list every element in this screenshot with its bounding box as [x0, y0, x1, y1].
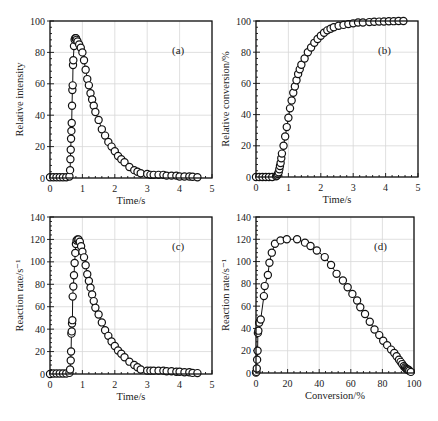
- x-tick-labels: 012345: [254, 182, 421, 193]
- data-point: [68, 102, 75, 109]
- data-point: [283, 236, 290, 243]
- x-tick-labels: 020406080100: [254, 378, 422, 389]
- x-tick-label: 3: [351, 182, 356, 193]
- y-tick-label: 140: [236, 212, 251, 223]
- x-tick-label: 3: [145, 183, 150, 194]
- x-tick-labels: 012345: [48, 379, 215, 390]
- data-point: [327, 261, 334, 268]
- figure: 012345020406080100Time/sRelative intensi…: [0, 0, 438, 421]
- data-point: [194, 370, 201, 377]
- y-tick-label: 40: [241, 109, 251, 120]
- y-tick-label: 80: [35, 47, 45, 58]
- data-point: [268, 249, 275, 256]
- y-tick-label: 0: [40, 369, 45, 380]
- y-tick-label: 60: [35, 78, 45, 89]
- y-tick-label: 60: [241, 301, 251, 312]
- data-point: [66, 366, 73, 373]
- data-point: [257, 316, 264, 323]
- y-axis-label: Relative conversion/%: [220, 51, 231, 147]
- y-tick-label: 40: [241, 323, 251, 334]
- data-point: [92, 304, 99, 311]
- data-point: [293, 236, 300, 243]
- x-tick-label: 1: [80, 379, 85, 390]
- data-point: [254, 356, 261, 363]
- data-point: [98, 319, 105, 326]
- y-axis-label: Relative intensity: [14, 62, 25, 137]
- y-tick-label: 0: [246, 368, 251, 379]
- data-point: [321, 254, 328, 261]
- panel-label: (d): [374, 240, 387, 253]
- data-point: [85, 82, 92, 89]
- data-point: [79, 49, 86, 56]
- data-point: [69, 317, 76, 324]
- y-tick-label: 100: [30, 256, 45, 267]
- data-point: [89, 291, 96, 298]
- x-axis-label: Time/s: [117, 195, 146, 206]
- data-point: [68, 119, 75, 126]
- y-tick-label: 20: [241, 140, 251, 151]
- data-point: [80, 57, 87, 64]
- x-tick-label: 5: [416, 182, 421, 193]
- x-tick-label: 2: [112, 379, 117, 390]
- data-point: [82, 262, 89, 269]
- y-tick-labels: 020406080100120140: [30, 212, 45, 380]
- data-point: [71, 259, 78, 266]
- x-tick-label: 60: [346, 378, 356, 389]
- x-axis-label: Time/s: [117, 391, 146, 402]
- y-tick-label: 20: [35, 346, 45, 357]
- series-markers: [46, 35, 201, 181]
- data-point: [333, 270, 340, 277]
- data-point: [253, 365, 260, 372]
- data-point: [266, 259, 273, 266]
- x-axis-label: Conversion/%: [305, 390, 365, 401]
- x-tick-label: 0: [48, 379, 53, 390]
- data-point: [90, 298, 97, 305]
- data-point: [260, 293, 267, 300]
- data-point: [261, 282, 268, 289]
- data-point: [68, 328, 75, 335]
- data-point: [194, 174, 201, 181]
- x-tick-label: 2: [112, 183, 117, 194]
- x-tick-label: 4: [177, 379, 182, 390]
- panel-label: (b): [378, 44, 391, 57]
- data-point: [349, 290, 356, 297]
- y-axis-label: Reaction rate/s⁻¹: [220, 259, 231, 331]
- data-point: [278, 150, 285, 157]
- x-tick-label: 1: [80, 183, 85, 194]
- y-tick-label: 100: [30, 16, 45, 27]
- panel-label: (c): [172, 240, 185, 253]
- y-tick-label: 60: [241, 78, 251, 89]
- data-point: [70, 272, 77, 279]
- x-tick-label: 80: [377, 378, 387, 389]
- y-tick-label: 140: [30, 212, 45, 223]
- data-point: [285, 114, 292, 121]
- x-tick-label: 4: [177, 183, 182, 194]
- data-point: [366, 318, 373, 325]
- panel-label: (a): [172, 44, 185, 57]
- data-point: [280, 142, 287, 149]
- data-point: [92, 108, 99, 115]
- x-tick-label: 5: [210, 379, 215, 390]
- data-point: [286, 105, 293, 112]
- data-point: [357, 304, 364, 311]
- x-tick-label: 1: [286, 182, 291, 193]
- y-tick-label: 0: [246, 172, 251, 183]
- data-point: [68, 127, 75, 134]
- data-point: [67, 156, 74, 163]
- data-point: [95, 116, 102, 123]
- data-point: [67, 348, 74, 355]
- data-point: [344, 284, 351, 291]
- x-tick-label: 0: [254, 182, 259, 193]
- x-tick-label: 20: [283, 378, 293, 389]
- chart-panel-a: 012345020406080100Time/sRelative intensi…: [14, 16, 215, 207]
- x-tick-label: 40: [314, 378, 324, 389]
- x-tick-label: 0: [48, 183, 53, 194]
- x-tick-label: 0: [254, 378, 259, 389]
- data-point: [85, 277, 92, 284]
- x-tick-label: 2: [318, 182, 323, 193]
- y-tick-label: 20: [241, 345, 251, 356]
- chart-panel-d: 020406080100020406080100120140Conversion…: [220, 212, 422, 402]
- x-tick-label: 4: [383, 182, 388, 193]
- data-point: [82, 66, 89, 73]
- y-axis-label: Reaction rate/s⁻¹: [14, 260, 25, 332]
